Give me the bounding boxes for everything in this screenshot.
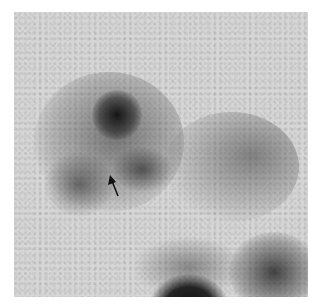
arrow-annotation-icon — [0, 0, 318, 307]
